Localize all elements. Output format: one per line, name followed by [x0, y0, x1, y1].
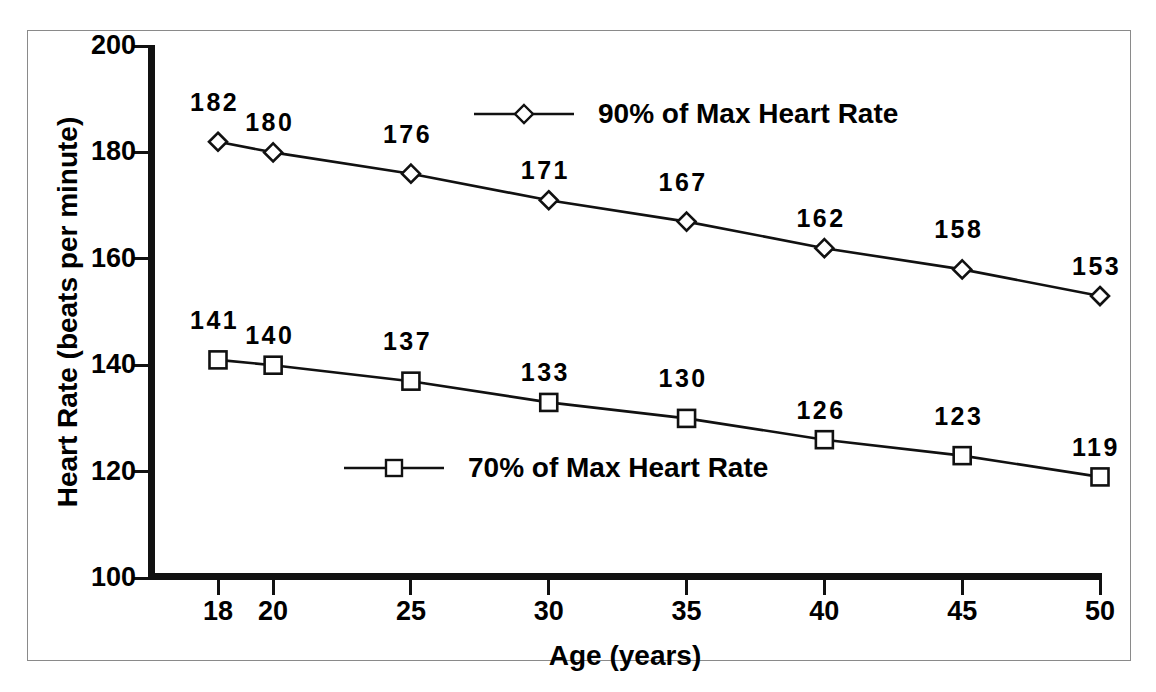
marker-diamond-icon	[540, 191, 558, 209]
point-label: 119	[1072, 435, 1120, 460]
legend-entry-70: 70% of Max Heart Rate	[342, 452, 768, 484]
marker-diamond-icon	[209, 133, 227, 151]
marker-diamond-icon	[815, 239, 833, 257]
point-label: 133	[521, 360, 570, 385]
marker-diamond-icon	[1091, 287, 1109, 305]
point-label: 158	[934, 217, 983, 242]
marker-square-icon	[678, 410, 695, 427]
legend-marker-square-icon	[342, 455, 446, 481]
marker-square-icon	[954, 447, 971, 464]
point-label: 141	[190, 308, 239, 333]
x-axis-title: Age (years)	[148, 640, 1102, 672]
point-label: 126	[796, 398, 845, 423]
legend-entry-90: 90% of Max Heart Rate	[472, 98, 898, 130]
legend-marker-diamond-icon	[472, 101, 576, 127]
marker-square-icon	[540, 394, 557, 411]
y-axis-title: Heart Rate (beats per minute)	[52, 32, 84, 592]
marker-square-icon	[816, 431, 833, 448]
marker-diamond-icon	[678, 213, 696, 231]
marker-diamond-icon	[402, 165, 420, 183]
legend-label-90: 90% of Max Heart Rate	[598, 98, 898, 130]
point-label: 153	[1072, 254, 1121, 279]
point-label: 162	[796, 206, 845, 231]
point-label: 180	[245, 110, 294, 135]
marker-square-icon	[265, 357, 282, 374]
marker-diamond-icon	[953, 260, 971, 278]
marker-square-icon	[1092, 468, 1109, 485]
point-label: 167	[659, 170, 708, 195]
point-label: 176	[383, 122, 432, 147]
point-label: 137	[383, 329, 432, 354]
legend-label-70: 70% of Max Heart Rate	[468, 452, 768, 484]
point-label: 171	[521, 158, 570, 183]
point-label: 182	[190, 90, 239, 115]
figure-root: Target Heart Rate Range 1001201401601802…	[0, 0, 1156, 692]
marker-square-icon	[210, 351, 227, 368]
point-label: 123	[934, 404, 983, 429]
plot-area: 100120140160180200 1820253035404550 1821…	[0, 0, 1156, 692]
point-label: 140	[245, 323, 294, 348]
marker-diamond-icon	[264, 143, 282, 161]
point-label: 130	[659, 366, 708, 391]
marker-square-icon	[402, 373, 419, 390]
